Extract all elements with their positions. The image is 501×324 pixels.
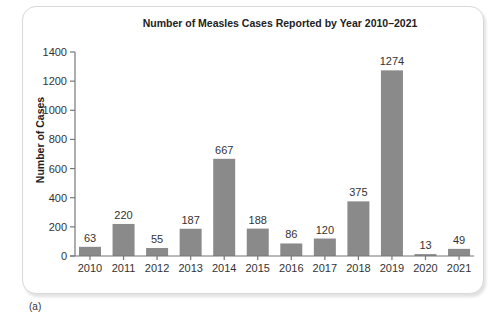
x-tick-label: 2013 bbox=[178, 262, 202, 274]
y-tick-label: 1400 bbox=[43, 46, 67, 58]
x-tick-label: 2019 bbox=[380, 262, 404, 274]
bar-value-label: 120 bbox=[316, 224, 334, 236]
bar-2014 bbox=[213, 159, 235, 256]
x-tick-label: 2017 bbox=[313, 262, 337, 274]
bar-2012 bbox=[146, 248, 168, 256]
x-tick-label: 2018 bbox=[346, 262, 370, 274]
bar-2016 bbox=[280, 243, 302, 256]
bar-value-label: 13 bbox=[419, 239, 431, 251]
bar-2015 bbox=[247, 229, 269, 256]
bar-value-label: 49 bbox=[453, 234, 465, 246]
bar-value-label: 375 bbox=[349, 186, 367, 198]
y-axis: 0200400600800100012001400 bbox=[43, 46, 75, 262]
x-tick-label: 2020 bbox=[413, 262, 437, 274]
y-tick-label: 600 bbox=[49, 163, 67, 175]
bar-2018 bbox=[347, 201, 369, 256]
bar-2017 bbox=[314, 239, 336, 256]
bar-chart-plot: 0200400600800100012001400 63220551876671… bbox=[0, 0, 501, 324]
bar-value-label: 220 bbox=[114, 209, 132, 221]
x-tick-label: 2014 bbox=[212, 262, 236, 274]
bar-2013 bbox=[180, 229, 202, 256]
bar-value-label: 188 bbox=[249, 214, 267, 226]
y-tick-label: 1000 bbox=[43, 104, 67, 116]
x-tick-label: 2015 bbox=[246, 262, 270, 274]
bar-2011 bbox=[113, 224, 135, 256]
bar-value-label: 63 bbox=[84, 232, 96, 244]
y-tick-label: 0 bbox=[61, 250, 67, 262]
x-tick-label: 2012 bbox=[145, 262, 169, 274]
bar-2019 bbox=[381, 70, 403, 256]
figure-caption: (a) bbox=[29, 301, 41, 312]
x-tick-label: 2021 bbox=[447, 262, 471, 274]
y-tick-label: 200 bbox=[49, 221, 67, 233]
bar-value-label: 667 bbox=[215, 144, 233, 156]
x-tick-label: 2016 bbox=[279, 262, 303, 274]
x-tick-label: 2011 bbox=[112, 262, 136, 274]
bars: 63220551876671888612037512741349 bbox=[79, 55, 470, 256]
y-tick-label: 1200 bbox=[43, 75, 67, 87]
bar-value-label: 187 bbox=[181, 214, 199, 226]
bar-2010 bbox=[79, 247, 101, 256]
bar-2021 bbox=[448, 249, 470, 256]
x-tick-label: 2010 bbox=[78, 262, 102, 274]
y-tick-label: 400 bbox=[49, 192, 67, 204]
bar-value-label: 1274 bbox=[380, 55, 404, 67]
bar-value-label: 55 bbox=[151, 233, 163, 245]
y-tick-label: 800 bbox=[49, 133, 67, 145]
x-axis: 2010201120122013201420152016201720182019… bbox=[70, 256, 474, 274]
bar-value-label: 86 bbox=[285, 228, 297, 240]
